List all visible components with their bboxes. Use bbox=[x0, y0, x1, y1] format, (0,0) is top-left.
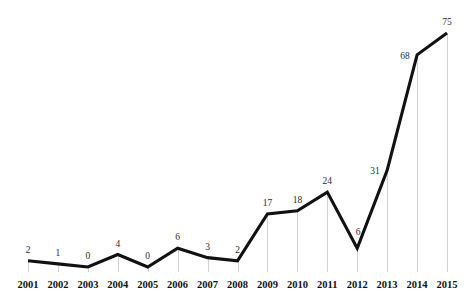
x-tick-2014: 2014 bbox=[407, 279, 429, 290]
data-label-2001: 2 bbox=[26, 245, 31, 255]
x-tick-2013: 2013 bbox=[377, 279, 398, 290]
dropline-group bbox=[29, 33, 448, 272]
x-tick-2003: 2003 bbox=[77, 279, 98, 290]
data-label-2007: 3 bbox=[205, 242, 210, 252]
x-tick-2002: 2002 bbox=[47, 279, 68, 290]
line-chart-svg: 210406321718246316875 200120022003200420… bbox=[0, 0, 469, 295]
x-tick-2012: 2012 bbox=[347, 279, 368, 290]
data-label-2005: 0 bbox=[145, 251, 150, 261]
data-label-2002: 1 bbox=[56, 248, 61, 258]
x-tick-2011: 2011 bbox=[317, 279, 337, 290]
data-label-2003: 0 bbox=[86, 251, 91, 261]
x-tick-2005: 2005 bbox=[137, 279, 158, 290]
data-label-2010: 18 bbox=[293, 195, 303, 205]
data-label-2011: 24 bbox=[323, 176, 333, 186]
x-tick-2001: 2001 bbox=[18, 279, 39, 290]
x-tick-2004: 2004 bbox=[107, 279, 129, 290]
data-label-2014: 68 bbox=[400, 51, 410, 61]
value-label-group: 210406321718246316875 bbox=[26, 17, 452, 261]
x-tick-2010: 2010 bbox=[287, 279, 308, 290]
x-tick-2007: 2007 bbox=[197, 279, 218, 290]
data-label-2004: 4 bbox=[115, 239, 120, 249]
data-label-2008: 2 bbox=[235, 245, 240, 255]
x-tick-2008: 2008 bbox=[227, 279, 248, 290]
data-series-line bbox=[28, 33, 447, 267]
chart-container: 210406321718246316875 200120022003200420… bbox=[0, 0, 469, 295]
x-tick-2006: 2006 bbox=[167, 279, 188, 290]
data-label-2006: 6 bbox=[175, 232, 180, 242]
x-tick-2009: 2009 bbox=[257, 279, 278, 290]
data-label-2012: 6 bbox=[356, 227, 361, 237]
x-tick-2015: 2015 bbox=[437, 279, 458, 290]
data-label-2009: 17 bbox=[263, 198, 273, 208]
data-label-2013: 31 bbox=[370, 166, 380, 176]
x-axis-tick-label-group: 2001200220032004200520062007200820092010… bbox=[18, 279, 458, 290]
data-label-2015: 75 bbox=[442, 17, 452, 27]
